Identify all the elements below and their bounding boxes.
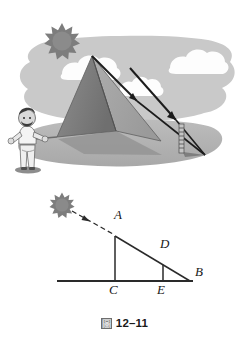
similar-triangles-diagram: A B C D E — [0, 185, 249, 310]
diagram-sun-disc — [55, 198, 68, 211]
segment-AB — [115, 236, 190, 281]
sun-ray-dashed — [72, 211, 113, 234]
person-robe — [20, 145, 35, 168]
figure-12-11: A B C D E 圖 12–11 — [0, 0, 249, 342]
vertex-label-C: C — [109, 282, 118, 298]
diagram-canvas — [0, 185, 249, 310]
observer-person — [8, 108, 48, 174]
diagram-sun-icon — [50, 193, 75, 219]
sun-ray-arrowhead — [82, 215, 91, 221]
person-right-hand — [42, 136, 48, 142]
vertex-label-A: A — [114, 207, 122, 223]
person-eye-left — [23, 117, 25, 119]
person-right-foot — [29, 167, 35, 170]
vertex-label-D: D — [160, 236, 169, 252]
person-left-hand — [8, 138, 14, 144]
figure-caption: 圖 12–11 — [0, 312, 249, 334]
illustration-canvas — [0, 0, 249, 185]
vertex-label-E: E — [157, 282, 165, 298]
pyramid-illustration — [0, 0, 249, 185]
sun-disc — [52, 31, 71, 50]
person-left-foot — [21, 167, 27, 170]
figure-glyph-icon: 圖 — [101, 318, 112, 329]
person-eye-right — [29, 117, 31, 119]
vertex-label-B: B — [195, 264, 203, 280]
figure-caption-number: 12–11 — [116, 317, 148, 329]
person-shadow — [15, 167, 41, 174]
measuring-pole — [179, 124, 184, 153]
